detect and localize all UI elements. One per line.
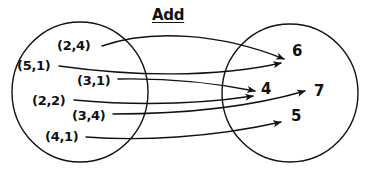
- domain-element-2: (3,1): [77, 74, 110, 87]
- codomain-element-3: 5: [291, 109, 301, 124]
- mapping-arrow: [102, 36, 284, 59]
- mapping-arrow: [118, 79, 255, 91]
- domain-element-5: (4,1): [45, 130, 78, 143]
- mapping-arrow: [74, 96, 253, 103]
- diagram-canvas: [0, 0, 365, 175]
- codomain-element-0: 6: [292, 44, 302, 59]
- mapping-arrow: [113, 91, 305, 114]
- domain-element-3: (2,2): [32, 94, 65, 107]
- domain-element-0: (2,4): [57, 39, 90, 52]
- domain-element-4: (3,4): [72, 109, 105, 122]
- mapping-diagram: Add (2,4)(5,1)(3,1)(2,2)(3,4)(4,1) 6475: [0, 0, 365, 175]
- domain-element-1: (5,1): [17, 59, 50, 72]
- diagram-title: Add: [152, 8, 184, 23]
- codomain-element-1: 4: [261, 82, 271, 97]
- codomain-element-2: 7: [314, 84, 324, 99]
- mapping-arrow: [86, 122, 281, 139]
